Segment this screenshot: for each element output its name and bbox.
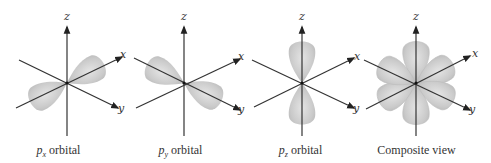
composite-diagram — [360, 0, 491, 163]
z-axis-label: z — [181, 11, 187, 22]
z-axis-label: z — [413, 11, 419, 22]
py-orbital-caption: py orbital — [118, 143, 243, 159]
py-orbital-diagram — [120, 0, 245, 163]
x-axis-label: x — [472, 48, 478, 59]
px-orbital-diagram — [0, 0, 125, 163]
pz-orbital-panel: z x y pz orbital — [240, 0, 365, 163]
y-axis-label: y — [469, 104, 475, 115]
composite-panel: z x y Composite view — [360, 0, 491, 163]
pz-orbital-diagram — [240, 0, 365, 163]
z-axis-label: z — [64, 11, 70, 22]
py-orbital-panel: z x y py orbital — [120, 0, 245, 163]
pz-orbital-caption: pz orbital — [238, 143, 363, 159]
y-axis-label: y — [353, 103, 359, 114]
composite-caption: Composite view — [351, 143, 482, 158]
z-axis-label: z — [299, 11, 305, 22]
px-orbital-panel: z x y px orbital — [0, 0, 125, 163]
px-orbital-caption: px orbital — [0, 143, 121, 159]
